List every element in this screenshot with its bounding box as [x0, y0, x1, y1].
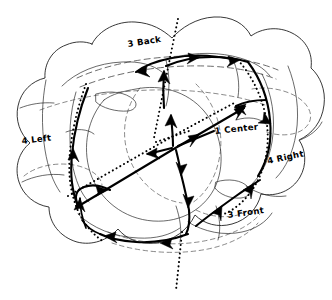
- arrowhead-junction-left: [146, 148, 160, 159]
- flow-path-group: [68, 53, 271, 249]
- label-1-center: 1 Center: [214, 121, 259, 136]
- dotted-seam-left-vertical: [69, 84, 104, 242]
- dotted-seam-center-short: [156, 130, 192, 142]
- flow-junction-branch-right: [178, 131, 214, 146]
- hidden-edge-right-ellipse: [252, 88, 311, 135]
- region-left-panel-divider: [20, 103, 54, 108]
- sketch-drawing: 3 Back 1 Center 4 Left 4 Right 3 Front: [0, 0, 332, 300]
- label-group: 3 Back 1 Center 4 Left 4 Right 3 Front: [21, 34, 305, 220]
- outer-body-outline: [17, 17, 324, 243]
- flow-right-inward-hook: [236, 100, 266, 106]
- arrowhead-front-right-ascending-2: [243, 184, 254, 199]
- arrowhead-center-descending: [183, 194, 194, 208]
- label-4-right: 4 Right: [266, 148, 304, 165]
- hidden-edge-center-oval-2: [192, 84, 221, 203]
- flow-center-diagonal: [82, 108, 244, 204]
- region-left-lower-divider: [22, 174, 64, 182]
- label-4-left: 4 Left: [21, 132, 52, 146]
- diagram-canvas: 3 Back 1 Center 4 Left 4 Right 3 Front: [0, 0, 332, 300]
- region-front-panel-left: [78, 214, 180, 238]
- label-3-back: 3 Back: [127, 34, 162, 49]
- hidden-edge-top-band-2: [80, 66, 276, 87]
- connector-lobe-upper-left: [96, 92, 136, 111]
- dotted-seam-bottom-vertical: [176, 232, 182, 290]
- connector-lobe-mid-left: [66, 130, 94, 134]
- hidden-edge-top-band: [77, 56, 278, 78]
- outer-silhouette-group: [17, 17, 324, 243]
